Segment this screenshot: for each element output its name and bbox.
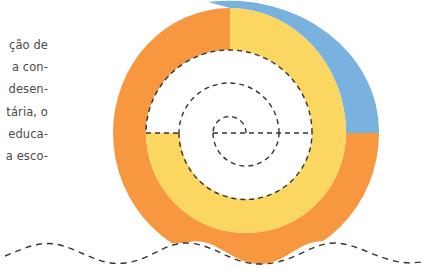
spiral-diagram <box>0 0 440 271</box>
wavy-ground-line <box>5 243 422 264</box>
